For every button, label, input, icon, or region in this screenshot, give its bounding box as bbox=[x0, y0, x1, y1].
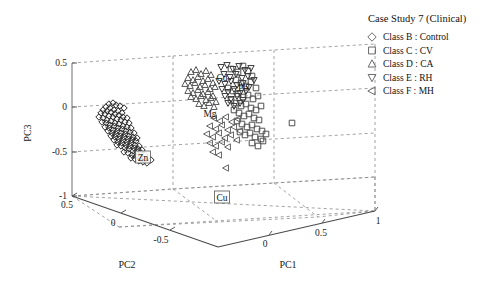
data-point bbox=[218, 65, 224, 71]
annotation-label: Cu bbox=[216, 193, 227, 203]
data-point bbox=[234, 137, 240, 143]
data-point bbox=[205, 76, 211, 82]
data-point bbox=[249, 140, 255, 146]
annotation-mg: Mg bbox=[203, 109, 216, 119]
legend-item-diamond[interactable]: Class B : Control bbox=[368, 32, 449, 42]
data-point bbox=[188, 94, 194, 100]
data-point bbox=[210, 134, 216, 140]
legend-item-square[interactable]: Class C : CV bbox=[369, 46, 433, 56]
plot-canvas: 0.5 0 -0.5 -1 0.5 0 -0.5 0 0.5 1 PC3 PC2… bbox=[0, 0, 486, 283]
legend-items: Class B : ControlClass C : CVClass D : C… bbox=[368, 32, 449, 96]
data-point bbox=[203, 68, 209, 74]
annotation-pb: Pb bbox=[238, 83, 248, 93]
tick-pc1-1: 0.5 bbox=[315, 228, 327, 238]
annotation-label: Cd bbox=[216, 73, 227, 83]
annotation-zn: Zn bbox=[136, 151, 151, 163]
legend-label: Class D : CA bbox=[383, 59, 434, 69]
tick-pc1-0: 0 bbox=[263, 239, 268, 249]
data-point bbox=[198, 93, 204, 99]
legend: Case Study 7 (Clinical) Class B : Contro… bbox=[368, 13, 467, 96]
legend-item-triangle-up[interactable]: Class D : CA bbox=[368, 59, 433, 69]
data-point bbox=[253, 85, 259, 91]
data-point bbox=[223, 114, 229, 120]
data-point bbox=[222, 94, 228, 100]
legend-label: Class F : MH bbox=[383, 86, 434, 96]
data-point bbox=[223, 165, 229, 171]
data-point bbox=[225, 144, 231, 150]
data-point bbox=[224, 63, 230, 69]
axis-title-pc3: PC3 bbox=[22, 124, 33, 141]
data-point bbox=[202, 82, 208, 88]
legend-marker-diamond-icon bbox=[368, 33, 376, 41]
tick-pc3-1: 0 bbox=[62, 102, 67, 112]
series-triangle-up bbox=[182, 67, 219, 110]
data-point bbox=[182, 81, 188, 87]
annotation-label: Mg bbox=[203, 109, 216, 119]
annotation-label: Pb bbox=[238, 83, 248, 93]
axis-title-pc2: PC2 bbox=[118, 259, 135, 270]
data-point bbox=[193, 67, 199, 73]
annotation-label: Zn bbox=[138, 153, 149, 163]
axis-pc2-ticks: 0.5 0 -0.5 bbox=[61, 193, 175, 245]
tick-pc2-1: 0 bbox=[111, 218, 116, 228]
data-point bbox=[219, 87, 225, 93]
legend-item-triangle-left[interactable]: Class F : MH bbox=[368, 86, 434, 96]
data-point bbox=[207, 123, 213, 129]
tick-pc1-2: 1 bbox=[376, 216, 381, 226]
tick-pc3-2: -0.5 bbox=[52, 147, 67, 157]
data-point bbox=[289, 120, 295, 126]
data-point bbox=[229, 119, 235, 125]
data-point bbox=[227, 75, 233, 81]
tick-pc2-2: -0.5 bbox=[153, 235, 168, 245]
legend-label: Class B : Control bbox=[383, 32, 449, 42]
tick-pc3-0: 0.5 bbox=[55, 58, 67, 68]
data-point bbox=[212, 84, 218, 90]
axis-pc3-ticks: 0.5 0 -0.5 -1 bbox=[52, 58, 77, 201]
annotation-cu: Cu bbox=[215, 191, 230, 203]
tick-pc2-0: 0.5 bbox=[61, 200, 73, 210]
legend-label: Class C : CV bbox=[383, 46, 433, 56]
data-point bbox=[213, 126, 219, 132]
data-point bbox=[231, 104, 237, 110]
data-point bbox=[185, 75, 191, 81]
data-point bbox=[225, 127, 231, 133]
data-points-layer bbox=[96, 63, 295, 172]
legend-marker-square-icon bbox=[369, 47, 376, 54]
legend-item-triangle-down[interactable]: Class E : RH bbox=[368, 73, 432, 83]
axis-title-pc1: PC1 bbox=[279, 259, 296, 270]
figure-3d-pca-scatter: 0.5 0 -0.5 -1 0.5 0 -0.5 0 0.5 1 PC3 PC2… bbox=[0, 0, 486, 283]
data-point bbox=[213, 143, 219, 149]
legend-label: Class E : RH bbox=[383, 73, 432, 83]
annotation-cd: Cd bbox=[216, 73, 227, 83]
legend-title: Case Study 7 (Clinical) bbox=[368, 13, 467, 25]
data-point bbox=[210, 149, 216, 155]
data-point bbox=[216, 152, 222, 158]
data-point bbox=[204, 131, 210, 137]
